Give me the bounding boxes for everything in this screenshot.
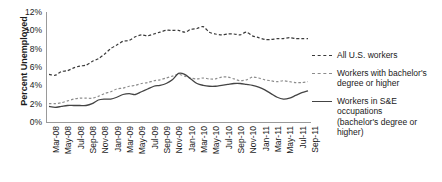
plot-area [46,12,311,122]
y-tick-label: 6% [18,63,42,72]
x-tick-label: May-10 [212,126,221,154]
x-tick-label: Nov-09 [175,126,184,153]
x-tick-label: May-09 [138,126,147,154]
legend-label-se-line1: Workers in S&E occupations [337,96,442,117]
legend-item-all-us-workers: All U.S. workers [312,50,442,61]
x-tick-label: Jul-10 [225,126,234,149]
x-tick-label: Mar-11 [274,126,283,152]
series-line-2 [49,73,308,107]
y-tick-label: 12% [18,8,42,17]
legend-item-se-occupations: Workers in S&E occupations (bachelor's d… [312,96,442,138]
x-tick-label: Sep-08 [89,126,98,153]
x-tick-label: Mar-08 [52,126,61,153]
x-tick-label: Mar-10 [200,126,209,153]
x-tick-label: Jul-11 [299,126,308,149]
legend-label-bachelors-line2: degree or higher [337,78,442,89]
x-tick-label: Mar-09 [126,126,135,153]
chart-legend: All U.S. workers Workers with bachelor's… [312,50,442,145]
x-tick-label: Nov-08 [101,126,110,153]
legend-swatch-dashed-gray [312,73,332,74]
x-tick-label: Jan-09 [114,126,123,152]
x-tick-label: Jul-09 [151,126,160,149]
x-tick-label: Jan-10 [188,126,197,152]
legend-swatch-dashed-dark [312,55,332,56]
y-tick-label: 4% [18,81,42,90]
x-tick-label: May-08 [64,126,73,154]
legend-label-all-us-workers: All U.S. workers [337,50,442,61]
x-tick-label: Jul-08 [77,126,86,149]
y-tick-label: 0% [18,118,42,127]
legend-item-bachelors: Workers with bachelor's degree or higher [312,68,442,89]
legend-label-bachelors-line1: Workers with bachelor's [337,68,442,79]
x-axis-tick-labels: Mar-08May-08Jul-08Sep-08Nov-08Jan-09Mar-… [46,124,311,182]
x-tick-label: Sep-09 [163,126,172,153]
chart-canvas [46,12,311,123]
y-axis-tick-labels: 0%2%4%6%8%10%12% [18,0,42,182]
x-tick-label: Jan-11 [262,126,271,151]
y-tick-label: 2% [18,99,42,108]
y-tick-label: 10% [18,26,42,35]
x-tick-label: Nov-10 [249,126,258,153]
legend-label-se-line2: (bachelor's degree or higher) [337,117,442,138]
legend-swatch-solid-dark [312,101,332,103]
series-line-1 [49,74,308,103]
chart-figure: Percent Unemployed 0%2%4%6%8%10%12% Mar-… [0,0,442,182]
x-tick-label: May-11 [286,126,295,154]
x-tick-label: Sep-10 [237,126,246,153]
y-tick-label: 8% [18,44,42,53]
series-line-0 [49,27,308,76]
